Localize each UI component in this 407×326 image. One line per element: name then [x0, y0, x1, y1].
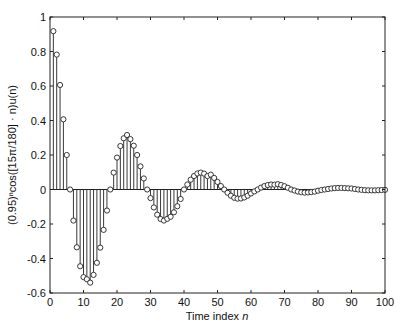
stem — [71, 190, 76, 224]
stem — [131, 143, 136, 189]
stem-plot: 0102030405060708090100 -0.6-0.4-0.200.20… — [0, 0, 407, 326]
stem — [208, 172, 213, 189]
stem — [98, 190, 103, 251]
stem-marker — [68, 187, 73, 192]
stem — [155, 190, 160, 218]
stem-marker — [128, 137, 133, 142]
y-tick-label: 0.4 — [31, 115, 46, 127]
stem — [135, 152, 140, 189]
stem-marker — [57, 82, 62, 87]
x-tick-label: 100 — [376, 296, 394, 308]
stem-marker — [104, 208, 109, 213]
x-tick-label: 60 — [245, 296, 257, 308]
stem — [68, 187, 73, 192]
stem-marker — [118, 143, 123, 148]
stem-marker — [54, 52, 59, 57]
x-tick-label: 0 — [47, 296, 53, 308]
x-axis-label: Time index n — [186, 310, 249, 322]
y-tick-label: 1 — [40, 11, 46, 23]
stem-marker — [101, 227, 106, 232]
stem-marker — [94, 260, 99, 265]
stem-marker — [88, 280, 93, 285]
y-tick-label: -0.6 — [27, 287, 46, 299]
x-tick-label: 20 — [111, 296, 123, 308]
stem — [88, 190, 93, 286]
y-axis-ticks: -0.6-0.4-0.200.20.40.60.81 — [27, 11, 385, 299]
stem-marker — [175, 204, 180, 209]
stem — [111, 170, 116, 190]
stem — [94, 190, 99, 266]
stem-marker — [108, 187, 113, 192]
y-tick-label: 0 — [40, 184, 46, 196]
x-tick-label: 90 — [345, 296, 357, 308]
stem-marker — [91, 272, 96, 277]
stem-marker — [61, 117, 66, 122]
stem-marker — [98, 245, 103, 250]
stem — [118, 143, 123, 189]
stem-marker — [185, 182, 190, 187]
y-tick-label: -0.2 — [27, 218, 46, 230]
stem — [64, 152, 69, 189]
plot-frame — [50, 17, 385, 293]
x-tick-label: 40 — [178, 296, 190, 308]
y-tick-label: -0.4 — [27, 253, 46, 265]
stem-marker — [145, 187, 150, 192]
stem — [158, 190, 163, 222]
stem-marker — [135, 152, 140, 157]
stem-marker — [114, 155, 119, 160]
stem-marker — [78, 264, 83, 269]
stem — [108, 187, 113, 192]
stem-marker — [178, 196, 183, 201]
y-tick-label: 0.6 — [31, 80, 46, 92]
stem-marker — [181, 187, 186, 192]
stem-series — [50, 29, 388, 286]
stem-marker — [148, 196, 153, 201]
stem-marker — [168, 214, 173, 219]
stem-marker — [74, 245, 79, 250]
stem-marker — [151, 205, 156, 210]
stem-marker — [111, 170, 116, 175]
stem-marker — [64, 152, 69, 157]
stem-marker — [131, 143, 136, 148]
stem — [145, 187, 150, 192]
stem — [84, 190, 89, 282]
stem-marker — [71, 218, 76, 223]
stem — [54, 52, 59, 189]
stem-marker — [51, 29, 56, 34]
x-tick-label: 70 — [278, 296, 290, 308]
x-tick-label: 50 — [211, 296, 223, 308]
stem-marker — [141, 176, 146, 181]
x-tick-label: 10 — [77, 296, 89, 308]
x-tick-label: 80 — [312, 296, 324, 308]
y-tick-label: 0.8 — [31, 46, 46, 58]
stem — [78, 190, 83, 269]
stem-marker — [171, 210, 176, 215]
y-tick-label: 0.2 — [31, 149, 46, 161]
stem — [104, 190, 109, 214]
y-axis-label: (0.95)ⁿcos([15π/180] · n)u(n) — [6, 85, 18, 225]
x-tick-label: 30 — [144, 296, 156, 308]
stem-marker — [138, 164, 143, 169]
stem — [181, 187, 186, 192]
stem — [171, 190, 176, 215]
stem — [57, 82, 62, 189]
